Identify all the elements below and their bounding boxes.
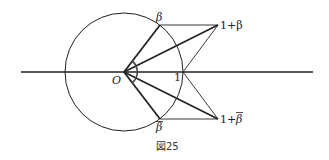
one-label: 1 <box>174 71 181 84</box>
vector-one-plus-beta <box>124 25 218 72</box>
figure-caption: 図25 <box>156 141 179 152</box>
vector-beta <box>124 25 160 72</box>
diagram: O 1 β β 1+β 1+ β 図25 <box>0 0 329 160</box>
beta-label: β <box>155 11 162 24</box>
origin-label: O <box>112 74 121 87</box>
one-to-sum-line <box>183 25 218 72</box>
vector-one-plus-beta-bar <box>124 72 218 119</box>
one-plus-beta-bar-sym: β <box>235 113 242 126</box>
vector-beta-bar <box>124 72 160 119</box>
one-to-sumbar-line <box>183 72 218 119</box>
one-plus-beta-bar-prefix: 1+ <box>220 113 236 126</box>
one-plus-beta-label: 1+β <box>220 19 243 32</box>
beta-bar-label: β <box>155 121 162 134</box>
